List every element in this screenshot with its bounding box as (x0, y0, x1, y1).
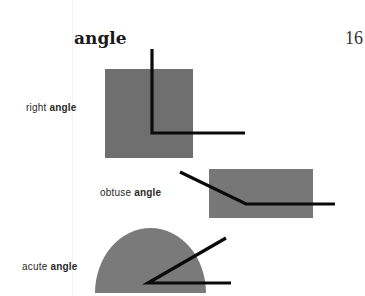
obtuse-angle-figure (180, 169, 335, 218)
acute-angle-figure (95, 228, 231, 293)
right-angle-figure (105, 49, 245, 158)
dictionary-page: angle 16 right angle obtuse angle acute … (0, 0, 365, 296)
angle-illustrations (0, 0, 365, 296)
